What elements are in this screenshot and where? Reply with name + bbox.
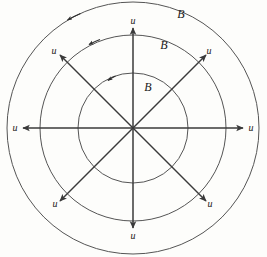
center-point: [132, 127, 134, 129]
label-u-right: u: [249, 123, 254, 133]
label-B-outer: B: [177, 8, 184, 20]
label-u-top: u: [131, 16, 136, 26]
label-u-lower-left: u: [53, 199, 58, 209]
label-u-upper-left: u: [52, 46, 57, 56]
label-B-middle: B: [160, 39, 167, 51]
label-u-left: u: [13, 123, 18, 133]
vector-down-right: [133, 128, 206, 201]
physics-diagram-figure: u u u u u u u u B B B: [0, 0, 267, 257]
label-u-lower-right: u: [208, 199, 213, 209]
label-u-bottom: u: [131, 231, 136, 241]
vector-up-left: [60, 55, 133, 128]
vector-down-left: [60, 128, 133, 201]
diagram-canvas: [0, 0, 267, 257]
label-u-upper-right: u: [207, 46, 212, 56]
outer-circle-direction-arrow: [68, 14, 81, 21]
label-B-inner: B: [144, 81, 151, 93]
